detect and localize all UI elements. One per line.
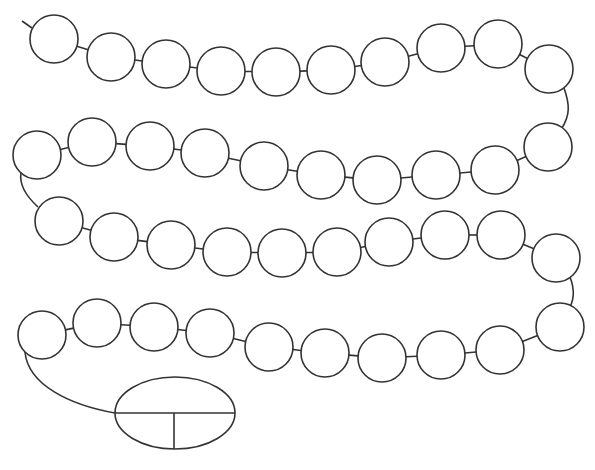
part-part-whole-oval <box>115 377 235 449</box>
bead-connector <box>190 67 197 68</box>
bead-circle-1 <box>30 15 78 63</box>
bead-connector <box>413 238 421 239</box>
lead-in-string <box>22 21 32 28</box>
bead-circle-32 <box>476 326 524 374</box>
bead-connector <box>408 54 417 56</box>
bead-circle-25 <box>258 229 306 277</box>
bead-connector <box>460 172 471 173</box>
bead-connector <box>233 339 245 342</box>
bead-connector <box>228 158 240 161</box>
bead-connector <box>135 60 142 61</box>
bead-circle-29 <box>477 211 525 259</box>
bead-connector <box>116 144 126 145</box>
bead-circle-3 <box>142 40 190 88</box>
bead-circle-33 <box>417 331 465 379</box>
bead-connector <box>406 356 417 357</box>
bead-connector <box>355 66 362 67</box>
bead-circle-22 <box>90 213 138 261</box>
bead-connector <box>138 240 147 241</box>
bead-connector <box>77 46 88 50</box>
bead-circle-39 <box>73 299 121 347</box>
bead-circle-35 <box>301 329 349 377</box>
bead-circle-2 <box>87 33 135 81</box>
bead-connector <box>82 228 91 231</box>
bead-circle-21 <box>35 197 83 245</box>
bead-connector <box>522 336 537 342</box>
bead-connector <box>60 148 68 150</box>
bead-circle-30 <box>532 234 580 282</box>
bead-connector <box>517 157 526 161</box>
bead-circle-18 <box>126 122 174 170</box>
bead-connector <box>465 352 476 353</box>
bead-circle-31 <box>536 303 584 351</box>
bead-circle-10 <box>525 45 573 93</box>
bead-circle-28 <box>421 211 469 259</box>
bead-circle-9 <box>474 20 522 68</box>
bead-circle-16 <box>240 142 288 190</box>
bead-circle-27 <box>365 218 413 266</box>
bead-circle-8 <box>417 24 465 72</box>
bead-circle-17 <box>181 129 229 177</box>
bead-circle-19 <box>68 118 116 166</box>
bead-circle-13 <box>412 151 460 199</box>
bead-circle-36 <box>245 323 293 371</box>
bead-connector <box>349 355 358 356</box>
bead-circles <box>13 15 584 382</box>
bead-circle-23 <box>147 221 195 269</box>
bead-circle-34 <box>358 334 406 382</box>
bead-circle-26 <box>313 228 361 276</box>
bead-circle-7 <box>361 38 409 86</box>
bead-circle-20 <box>13 131 61 179</box>
bead-circle-11 <box>524 123 572 171</box>
bead-connector <box>523 244 534 248</box>
bead-circle-24 <box>203 228 251 276</box>
bead-circle-40 <box>18 311 66 359</box>
bead-connector <box>174 149 181 150</box>
bead-circle-37 <box>186 309 234 357</box>
bead-circle-14 <box>353 156 401 204</box>
bead-connector <box>178 330 186 331</box>
bead-connector <box>195 248 203 249</box>
bead-connector <box>65 328 73 330</box>
bead-circle-4 <box>197 47 245 95</box>
bead-connector <box>293 350 301 351</box>
bead-circle-6 <box>307 46 355 94</box>
bead-circle-5 <box>252 48 300 96</box>
bead-connector <box>345 177 353 178</box>
bead-chain-diagram <box>0 0 595 470</box>
bead-connector <box>121 325 130 326</box>
bead-connector <box>465 46 474 47</box>
bead-circle-38 <box>130 303 178 351</box>
bead-connector <box>288 170 298 172</box>
bead-connector <box>401 177 412 178</box>
bead-circle-12 <box>471 146 519 194</box>
bead-circle-15 <box>297 151 345 199</box>
turn-curve <box>562 88 568 128</box>
bead-connector <box>520 55 528 59</box>
turn-curve <box>25 352 115 413</box>
